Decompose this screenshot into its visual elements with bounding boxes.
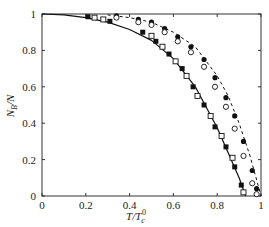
filled-circles: [114, 13, 259, 191]
x-tick-label: 0.2: [79, 199, 93, 211]
y-tick-label: 0.6: [22, 81, 36, 93]
x-tick-label: 0.6: [167, 199, 181, 211]
y-tick-label: 0.8: [22, 44, 36, 56]
open-squares: [92, 15, 246, 195]
x-tick-label: 0.8: [210, 199, 224, 211]
x-axis-label: T/Tc0: [126, 208, 146, 225]
data-series: [42, 13, 261, 197]
dashed-curve: [108, 15, 261, 196]
x-tick-label: 0: [39, 199, 45, 211]
open-circles: [114, 15, 259, 197]
x-tick-label: 1: [258, 199, 264, 211]
solid-curve: [42, 14, 246, 196]
y-tick-label: 0.2: [22, 154, 36, 166]
filled-squares: [85, 14, 243, 187]
chart: 00.20.40.60.8100.20.40.60.81 T/Tc0 NB/N: [0, 0, 269, 227]
y-tick-label: 1: [31, 8, 37, 20]
y-axis-label: NB/N: [4, 94, 19, 118]
y-tick-label: 0: [31, 190, 37, 202]
y-tick-label: 0.4: [22, 117, 36, 129]
axis-ticks: 00.20.40.60.8100.20.40.60.81: [22, 8, 264, 211]
